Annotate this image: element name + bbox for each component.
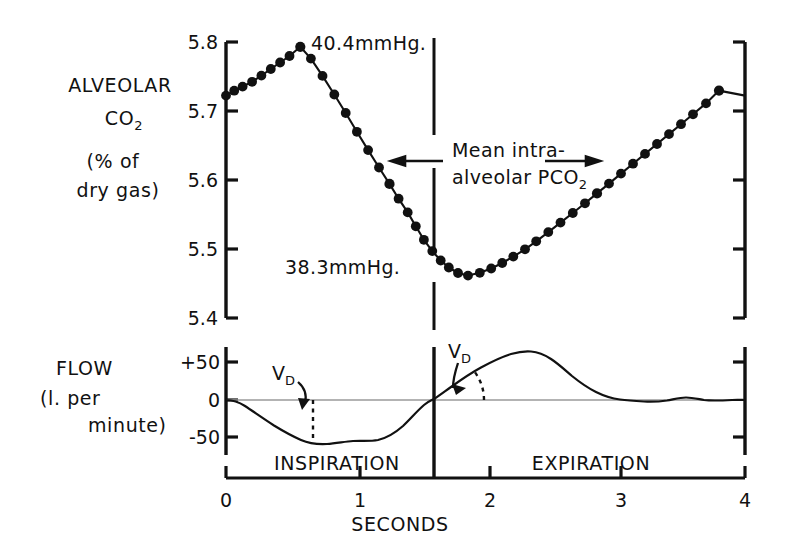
co2-axis-label-line2: CO2 (105, 107, 143, 133)
deadspace-arrowhead-inspiration (298, 398, 310, 410)
phase-label-inspiration: INSPIRATION (274, 452, 400, 474)
deadspace-label-inspiration: VD (272, 362, 295, 388)
co2-curve (226, 47, 745, 276)
annotation-peak-value: 40.4mmHg. (311, 32, 426, 54)
deadspace-label-expiration: VD (448, 340, 471, 366)
deadspace-marker-inspiration (298, 382, 313, 442)
mean-pco2-arrow-left (391, 157, 443, 166)
co2-ytick-label-5-5: 5.5 (188, 238, 218, 260)
deadspace-dashed-line-expiration (474, 371, 484, 400)
co2-axis-label-text: CO (105, 107, 134, 129)
x-tick-label-0: 0 (220, 489, 232, 511)
co2-axis-label-line4: dry gas) (77, 179, 160, 201)
x-axis-title: SECONDS (351, 513, 448, 535)
deadspace-label-sub-expiration: D (461, 351, 471, 366)
co2-axis-label-line1: ALVEOLAR (68, 74, 171, 96)
deadspace-label-v-expiration: V (448, 340, 461, 362)
annotation-mean-subscript: 2 (579, 177, 588, 192)
flow-ytick-label-minus50: -50 (189, 426, 220, 448)
annotation-mean-text: alveolar PCO (452, 166, 579, 188)
co2-axis-label-line3: (% of (87, 150, 140, 172)
flow-axis-label-line2: (l. per (40, 387, 101, 409)
flow-axis-label-line3: minute) (88, 414, 167, 436)
flow-ytick-label-plus50: +50 (180, 351, 220, 373)
co2-axis-label-subscript: 2 (134, 118, 143, 133)
x-tick-label-3: 3 (615, 489, 627, 511)
x-tick-label-4: 4 (739, 489, 751, 511)
flow-curve (226, 351, 745, 444)
co2-ytick-label-5-4: 5.4 (188, 307, 218, 329)
deadspace-label-sub-inspiration: D (285, 373, 295, 388)
phase-label-expiration: EXPIRATION (532, 452, 650, 474)
flow-axis-label-line1: FLOW (56, 357, 113, 379)
annotation-mean-line2: alveolar PCO2 (452, 166, 587, 192)
annotation-mean-line1: Mean intra- (452, 139, 565, 161)
annotation-trough-value: 38.3mmHg. (285, 256, 400, 278)
x-tick-label-2: 2 (484, 489, 496, 511)
x-tick-label-1: 1 (354, 489, 366, 511)
co2-ytick-label-5-7: 5.7 (188, 100, 218, 122)
figure-respiratory-co2-flow: ALVEOLAR CO2 (% of dry gas) 5.8 5.7 5.6 … (0, 0, 787, 555)
co2-ytick-label-5-8: 5.8 (188, 31, 218, 53)
co2-data-points (221, 42, 724, 281)
flow-ytick-label-zero: 0 (208, 389, 220, 411)
co2-ytick-label-5-6: 5.6 (188, 169, 218, 191)
deadspace-label-v-inspiration: V (272, 362, 285, 384)
deadspace-arrowhead-expiration (452, 384, 466, 395)
